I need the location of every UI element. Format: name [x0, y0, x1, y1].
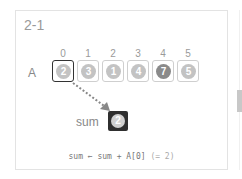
sum-label: sum — [76, 115, 99, 129]
equation-code: sum ← sum + A[0] — [69, 152, 146, 161]
dotted-arrow-icon — [16, 11, 229, 171]
step-card: 2-1 0 1 2 3 4 5 A 2 3 1 4 7 5 sum 2 sum … — [15, 10, 228, 170]
next-step-tab[interactable] — [237, 90, 242, 112]
sum-box: 2 — [108, 111, 128, 131]
equation-note: (= 2) — [150, 152, 174, 161]
equation: sum ← sum + A[0] (= 2) — [16, 152, 227, 161]
sum-value-circle: 2 — [111, 114, 125, 128]
